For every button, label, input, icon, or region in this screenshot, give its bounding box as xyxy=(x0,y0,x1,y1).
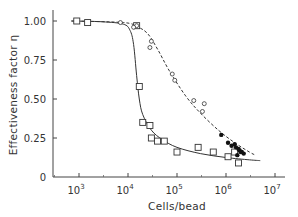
square-marker xyxy=(236,160,242,166)
y-ticks: 00.250.500.751.00 xyxy=(24,16,57,183)
y-tick-label: 0.25 xyxy=(24,133,46,144)
x-ticks: 103104105106107 xyxy=(55,173,281,196)
y-axis-label: Effectiveness factor η xyxy=(7,35,19,156)
square-marker xyxy=(85,20,91,26)
square-marker xyxy=(174,149,180,155)
x-tick-label: 103 xyxy=(67,183,84,196)
open-circle-marker xyxy=(200,109,204,113)
filled-circle-marker xyxy=(235,153,239,157)
square-marker xyxy=(161,138,167,144)
square-marker xyxy=(210,149,216,155)
open-circle-marker xyxy=(148,46,152,50)
x-tick-label: 105 xyxy=(165,183,182,196)
filled-circle-marker xyxy=(219,133,223,137)
y-tick-label: 1.00 xyxy=(24,16,46,27)
x-axis-label: Cells/bead xyxy=(148,200,206,212)
square-marker xyxy=(195,144,201,150)
y-tick-label: 0 xyxy=(40,172,46,183)
y-tick-label: 0.50 xyxy=(24,94,46,105)
open-circle-marker xyxy=(149,39,153,43)
open-circle-marker xyxy=(118,21,122,25)
square-marker xyxy=(155,138,161,144)
effectiveness-chart: 00.250.500.751.00 103104105106107 Cells/… xyxy=(0,0,298,217)
square-marker xyxy=(147,123,153,129)
square-marker xyxy=(225,154,231,160)
open-circle-marker xyxy=(173,78,177,82)
open-circle-marker xyxy=(202,102,206,106)
dashed-fit-curve xyxy=(71,21,255,155)
square-marker xyxy=(136,84,142,90)
y-tick-label: 0.75 xyxy=(24,55,46,66)
axes xyxy=(53,10,285,177)
open-circle-marker xyxy=(132,25,136,29)
x-tick-label: 107 xyxy=(263,183,280,196)
filled-circle-marker xyxy=(226,140,230,144)
filled-circle-marker xyxy=(242,151,246,155)
square-marker xyxy=(140,119,146,125)
open-circle-marker xyxy=(170,72,174,76)
square-marker xyxy=(74,18,80,24)
x-tick-label: 104 xyxy=(116,183,134,196)
open-circle-marker xyxy=(192,99,196,103)
square-marker xyxy=(148,135,154,141)
x-tick-label: 106 xyxy=(214,183,232,196)
data-points xyxy=(74,18,246,166)
